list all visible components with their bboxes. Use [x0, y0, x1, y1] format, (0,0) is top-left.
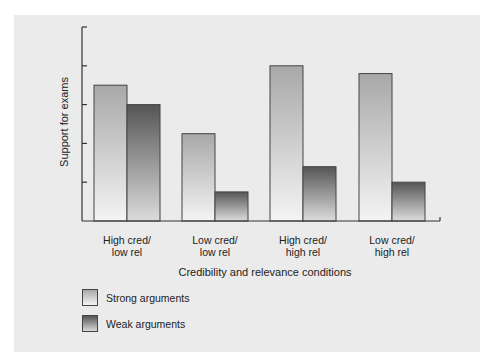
legend-swatch-strong [82, 289, 98, 306]
legend-label-weak: Weak arguments [106, 318, 185, 330]
bar-strong-3 [359, 74, 392, 221]
legend-swatch-weak [82, 315, 98, 332]
bar-chart [0, 0, 494, 364]
bar-weak-1 [215, 192, 248, 221]
x-tick-label-line: high rel [258, 246, 348, 258]
x-tick-label-2: High cred/high rel [258, 234, 348, 258]
x-tick-label-0: High cred/low rel [82, 234, 172, 258]
bar-strong-0 [94, 85, 127, 221]
x-axis-label: Credibility and relevance conditions [130, 266, 400, 278]
legend-label-strong: Strong arguments [106, 292, 189, 304]
legend-item-weak: Weak arguments [82, 315, 185, 332]
bar-strong-1 [182, 134, 215, 221]
x-tick-label-line: Low cred/ [170, 234, 260, 246]
bar-weak-3 [392, 182, 425, 221]
y-axis-label: Support for exams [58, 72, 70, 172]
bar-strong-2 [270, 66, 303, 221]
x-tick-label-line: High cred/ [82, 234, 172, 246]
x-tick-label-line: high rel [347, 246, 437, 258]
x-tick-label-line: low rel [82, 246, 172, 258]
legend-item-strong: Strong arguments [82, 289, 189, 306]
x-tick-label-line: low rel [170, 246, 260, 258]
bars-group [94, 66, 425, 221]
x-tick-label-3: Low cred/high rel [347, 234, 437, 258]
bar-weak-0 [127, 105, 160, 221]
x-tick-label-1: Low cred/low rel [170, 234, 260, 258]
x-tick-label-line: Low cred/ [347, 234, 437, 246]
bar-weak-2 [303, 167, 336, 221]
x-tick-label-line: High cred/ [258, 234, 348, 246]
